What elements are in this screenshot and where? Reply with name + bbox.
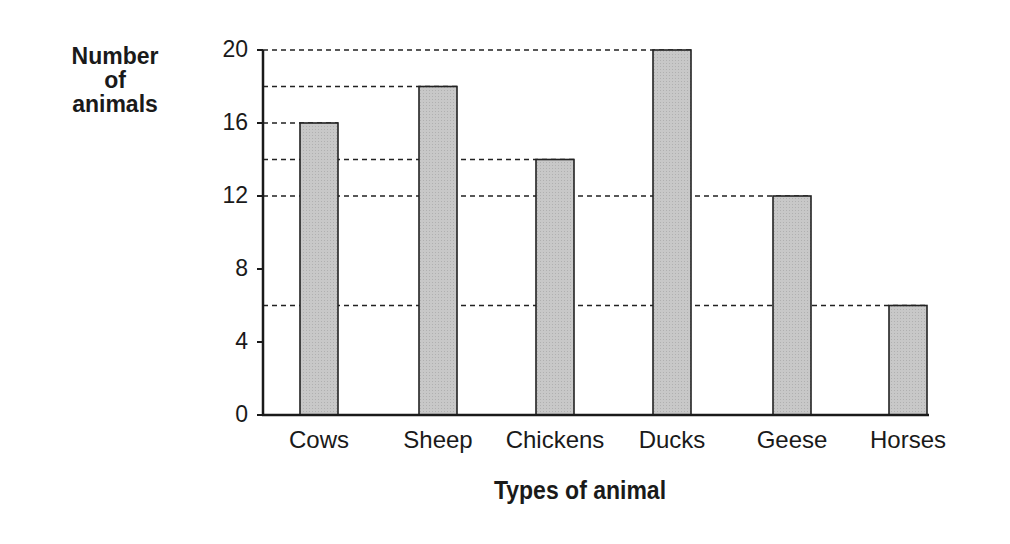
bar-geese: [773, 196, 811, 415]
reference-lines: [263, 50, 927, 306]
x-category-label: Cows: [259, 426, 379, 454]
y-axis-title-line: Number: [40, 44, 190, 68]
y-tick-label: 0: [208, 401, 248, 428]
y-axis-title: Number of animals: [40, 44, 190, 116]
bar-sheep: [419, 87, 457, 416]
x-category-label: Ducks: [612, 426, 732, 454]
y-axis-title-line: of: [40, 68, 190, 92]
x-category-label: Sheep: [378, 426, 498, 454]
y-tick-label: 12: [208, 182, 248, 209]
axes: [262, 50, 929, 416]
y-axis-title-line: animals: [40, 92, 190, 116]
y-tick-label: 16: [208, 109, 248, 136]
x-axis-title: Types of animal: [442, 476, 718, 505]
bar-cows: [300, 123, 338, 415]
bar-horses: [889, 306, 927, 416]
y-tick-label: 4: [208, 328, 248, 355]
bar-chickens: [536, 160, 574, 416]
y-tick-label: 8: [208, 255, 248, 282]
x-category-label: Horses: [848, 426, 968, 454]
x-category-label: Geese: [732, 426, 852, 454]
y-tick-label: 20: [208, 36, 248, 63]
bar-ducks: [653, 50, 691, 415]
x-category-label: Chickens: [495, 426, 615, 454]
bars: [300, 50, 927, 415]
